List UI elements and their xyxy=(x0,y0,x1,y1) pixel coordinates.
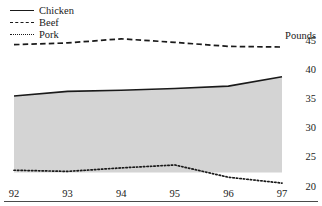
chicken-area-fill xyxy=(14,77,282,173)
y-tick-45: 45 xyxy=(306,35,317,46)
plot-area xyxy=(14,40,282,186)
legend-line-dotted-icon xyxy=(10,30,34,40)
x-tick-94: 94 xyxy=(116,188,127,199)
legend-line-solid-icon xyxy=(10,6,34,16)
x-tick-92: 92 xyxy=(9,188,20,199)
legend-item-beef: Beef xyxy=(10,17,130,28)
legend-item-pork: Pork xyxy=(10,29,130,40)
legend-line-dashed-icon xyxy=(10,18,34,28)
y-tick-30: 30 xyxy=(306,122,317,133)
legend-label-chicken: Chicken xyxy=(39,5,74,16)
legend-item-chicken: Chicken xyxy=(10,5,130,16)
y-tick-35: 35 xyxy=(306,93,317,104)
x-tick-95: 95 xyxy=(170,188,181,199)
bottom-divider xyxy=(4,201,318,202)
chart-legend: Chicken Beef Pork xyxy=(10,5,130,41)
y-tick-25: 25 xyxy=(306,151,317,162)
x-tick-97: 97 xyxy=(277,188,288,199)
chart-figure: Chicken Beef Pork Pounds 45 40 35 30 25 xyxy=(0,0,322,206)
x-tick-93: 93 xyxy=(62,188,73,199)
y-tick-20: 20 xyxy=(306,181,317,192)
legend-label-beef: Beef xyxy=(39,17,59,28)
x-tick-96: 96 xyxy=(223,188,234,199)
y-tick-40: 40 xyxy=(306,64,317,75)
area-fill-group xyxy=(14,77,282,173)
legend-label-pork: Pork xyxy=(39,29,59,40)
chart-svg xyxy=(14,40,282,186)
beef-line xyxy=(14,39,282,47)
